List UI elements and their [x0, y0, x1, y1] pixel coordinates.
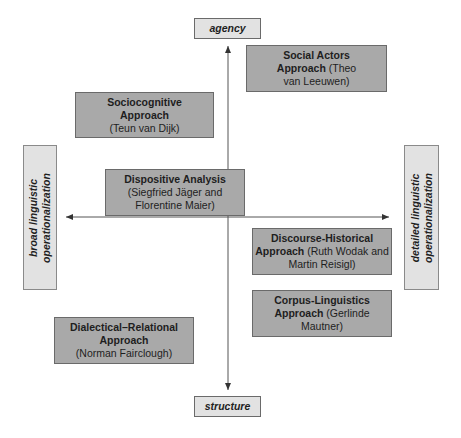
- box-dispositive-analysis: Dispositive Analysis (Siegfried Jäger an…: [105, 169, 245, 216]
- title: Dispositive Analysis: [124, 173, 226, 186]
- author: (Gerlinde: [323, 307, 369, 319]
- author: (Siegfried Jäger and: [128, 186, 223, 199]
- structure-text: structure: [205, 400, 251, 413]
- axis-label-detailed-linguistic: detailed linguistic operationalization: [404, 145, 439, 290]
- title-cont: Approach: [99, 334, 148, 347]
- title-cont: Approach: [277, 62, 326, 74]
- agency-text: agency: [209, 22, 245, 35]
- box-discourse-historical-approach: Discourse-Historical Approach (Ruth Woda…: [252, 228, 392, 275]
- title: Sociocognitive: [107, 96, 182, 109]
- author: (Teun van Dijk): [109, 122, 179, 135]
- box-corpus-linguistics-approach: Corpus-Linguistics Approach (Gerlinde Ma…: [252, 290, 392, 337]
- box-dialectical-relational-approach: Dialectical–Relational Approach (Norman …: [54, 317, 194, 364]
- line2: Approach (Theo: [277, 62, 356, 75]
- title-cont: Approach: [120, 109, 169, 122]
- title-cont: Approach: [274, 307, 323, 319]
- axis-label-agency: agency: [194, 18, 261, 39]
- broad-line1: broad linguistic: [27, 173, 40, 263]
- axes: [0, 0, 461, 438]
- detailed-line2: operationalization: [422, 173, 435, 263]
- author: (Norman Fairclough): [76, 347, 172, 360]
- box-sociocognitive-approach: Sociocognitive Approach (Teun van Dijk): [75, 92, 214, 138]
- title: Dialectical–Relational: [70, 321, 178, 334]
- axis-label-broad-linguistic: broad linguistic operationalization: [23, 145, 57, 290]
- title: Corpus-Linguistics: [274, 294, 370, 307]
- title: Discourse-Historical: [271, 232, 373, 245]
- line2: Approach (Ruth Wodak and: [255, 245, 388, 258]
- author-cont: Florentine Maier): [135, 199, 214, 212]
- title-cont: Approach: [255, 245, 304, 257]
- broad-line2: operationalization: [40, 173, 53, 263]
- author-cont: Martin Reisigl): [288, 258, 355, 271]
- title: Social Actors: [283, 49, 350, 62]
- box-social-actors-approach: Social Actors Approach (Theo van Leeuwen…: [246, 45, 387, 92]
- detailed-line1: detailed linguistic: [409, 173, 422, 263]
- author-cont: van Leeuwen): [284, 75, 350, 88]
- line2: Approach (Gerlinde: [274, 307, 369, 320]
- axis-label-structure: structure: [194, 396, 261, 417]
- author: (Ruth Wodak and: [304, 245, 388, 257]
- author: (Theo: [326, 62, 356, 74]
- author-cont: Mautner): [301, 320, 343, 333]
